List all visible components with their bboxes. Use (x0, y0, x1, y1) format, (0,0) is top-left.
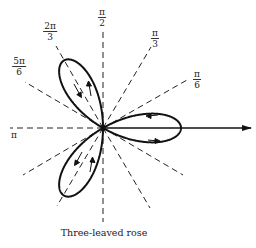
label-numerator: π (151, 29, 159, 39)
label-pi: π (11, 130, 17, 140)
label-pi-over-2: π 2 (98, 8, 106, 27)
label-numerator: π (193, 70, 201, 80)
direction-arrows (74, 81, 160, 172)
arrow-icon (87, 81, 92, 96)
label-denominator: 6 (194, 80, 200, 89)
label-5pi-over-6: 5π 6 (12, 57, 26, 76)
ray-pi-over-3 (103, 47, 151, 128)
arrow-icon (75, 152, 83, 166)
label-denominator: 3 (47, 32, 53, 41)
label-pi-over-6: π 6 (193, 70, 201, 89)
label-2pi-over-3: 2π 3 (43, 22, 57, 41)
ray-5pi-over-3 (103, 128, 150, 208)
label-denominator: 6 (16, 67, 22, 76)
label-denominator: 2 (99, 18, 105, 27)
label-numerator: 2π (43, 22, 57, 32)
figure-caption: Three-leaved rose (61, 227, 148, 238)
label-numerator: 5π (12, 57, 26, 67)
label-pi-over-3: π 3 (151, 29, 159, 48)
label-numerator: π (98, 8, 106, 18)
three-leaved-rose-diagram (0, 0, 256, 248)
arrow-icon (74, 84, 82, 98)
label-denominator: 3 (152, 39, 158, 48)
